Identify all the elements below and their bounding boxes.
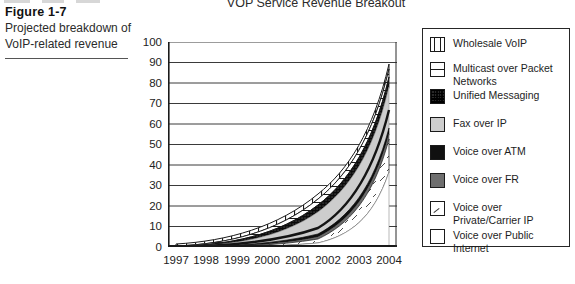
x-tick-label: 2004	[369, 254, 409, 267]
scan-artifact	[42, 0, 64, 3]
legend-label: Fax over IP	[453, 117, 507, 130]
legend-item-voice-over-atm[interactable]: Voice over ATM	[430, 145, 526, 160]
legend-label: Multicast over Packet Networks	[453, 62, 565, 87]
legend-label: Unified Messaging	[453, 89, 539, 102]
y-tick-label: 100	[132, 36, 162, 48]
legend-swatch-wholesale-voip	[430, 37, 445, 52]
scan-artifact	[76, 0, 100, 3]
legend-label: Wholesale VoIP	[453, 37, 527, 50]
caption-divider	[5, 58, 128, 59]
legend-item-fax-over-ip[interactable]: Fax over IP	[430, 117, 507, 132]
y-tick-label: 10	[132, 220, 162, 232]
y-tick-label: 0	[132, 241, 162, 253]
chart-title: VOP Service Revenue Breakout	[196, 0, 436, 10]
legend-swatch-multicast-over-packet-networks	[430, 62, 445, 77]
y-tick-label: 40	[132, 159, 162, 171]
legend-label: Voice over Private/Carrier IP	[453, 201, 565, 226]
y-tick-label: 50	[132, 138, 162, 150]
legend-swatch-fax-over-ip	[430, 117, 445, 132]
legend-label: Voice over FR	[453, 173, 519, 186]
y-tick-label: 70	[132, 97, 162, 109]
chart-legend: Wholesale VoIP Multicast over Packet Net…	[422, 28, 570, 247]
legend-item-unified-messaging[interactable]: Unified Messaging	[430, 89, 539, 104]
legend-label: Voice over Public Internet	[453, 229, 565, 254]
scan-artifact	[4, 0, 30, 3]
legend-item-voice-over-public-internet[interactable]: Voice over Public Internet	[430, 229, 565, 254]
legend-swatch-voice-over-private-carrier-ip	[430, 201, 445, 216]
legend-item-voice-over-fr[interactable]: Voice over FR	[430, 173, 519, 188]
legend-swatch-voice-over-fr	[430, 173, 445, 188]
legend-swatch-unified-messaging	[430, 89, 445, 104]
chart-plot-area	[168, 42, 397, 247]
figure-description: Projected breakdown of VoIP-related reve…	[5, 21, 137, 52]
y-tick-label: 90	[132, 56, 162, 68]
stacked-area-chart	[168, 42, 397, 247]
figure-number: Figure 1-7	[5, 5, 137, 20]
y-tick-label: 60	[132, 118, 162, 130]
legend-item-multicast-over-packet-networks[interactable]: Multicast over Packet Networks	[430, 62, 565, 87]
legend-swatch-voice-over-atm	[430, 145, 445, 160]
legend-item-wholesale-voip[interactable]: Wholesale VoIP	[430, 37, 527, 52]
y-tick-label: 20	[132, 200, 162, 212]
y-tick-label: 30	[132, 179, 162, 191]
legend-item-voice-over-private-carrier-ip[interactable]: Voice over Private/Carrier IP	[430, 201, 565, 226]
figure-caption: Figure 1-7 Projected breakdown of VoIP-r…	[5, 5, 137, 59]
legend-swatch-voice-over-public-internet	[430, 229, 445, 244]
legend-label: Voice over ATM	[453, 145, 526, 158]
y-tick-label: 80	[132, 77, 162, 89]
